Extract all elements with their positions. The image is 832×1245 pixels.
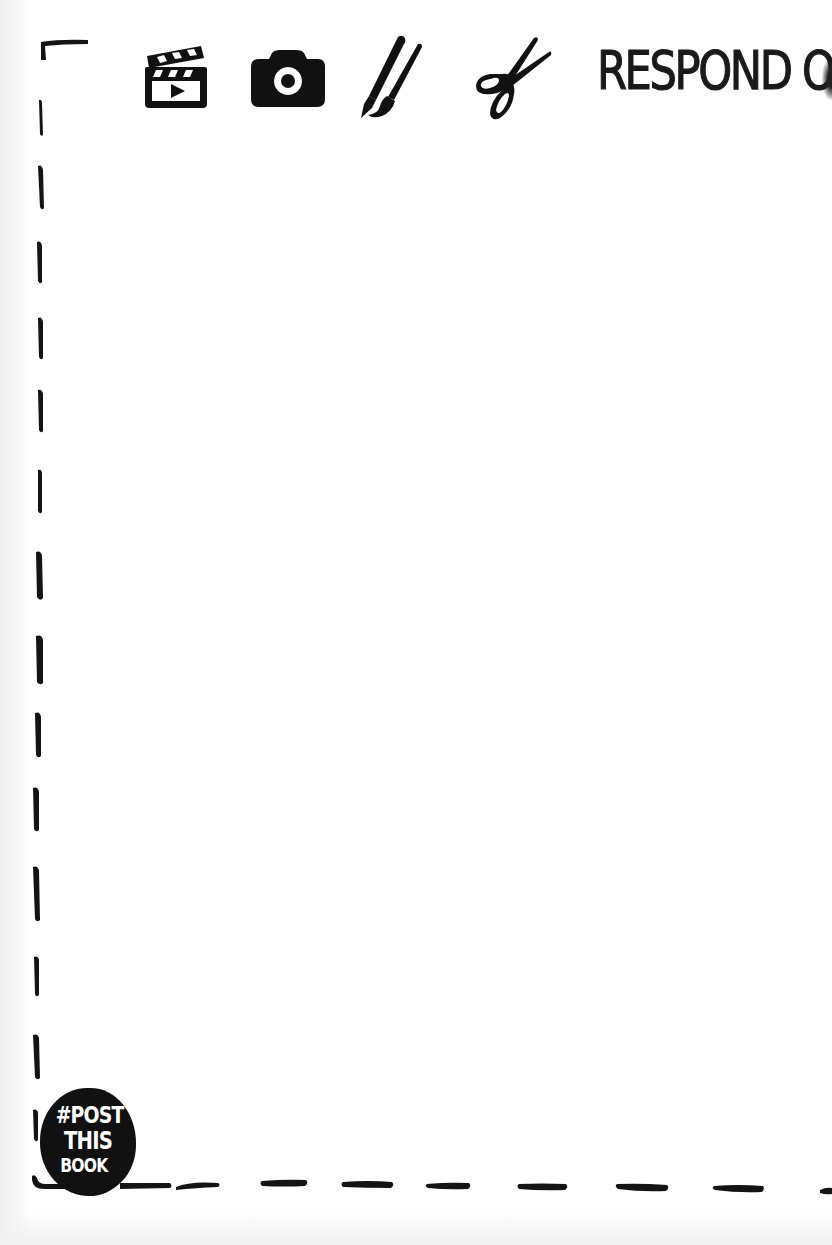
clapperboard-video-icon xyxy=(144,44,208,110)
pen-and-brush-icon xyxy=(358,34,424,120)
book-page: RESPOND ON #POST THIS BOOK xyxy=(0,0,832,1245)
dashed-frame xyxy=(0,0,832,1245)
camera-icon xyxy=(250,49,326,109)
page-edge-smudge xyxy=(822,58,832,100)
scissors-icon xyxy=(472,36,552,122)
badge-text: #POST THIS BOOK xyxy=(49,1104,128,1175)
badge-line-this: THIS xyxy=(49,1129,128,1153)
badge-line-book: BOOK xyxy=(40,1156,127,1175)
frame-corner-top-left xyxy=(41,40,88,60)
post-this-book-badge: #POST THIS BOOK xyxy=(32,1088,140,1200)
page-title: RESPOND ON xyxy=(597,44,832,98)
badge-line-hashtag: #POST xyxy=(52,1104,127,1127)
